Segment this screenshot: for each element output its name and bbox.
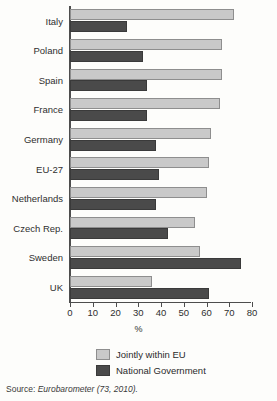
x-axis-tick-label: 70 [224, 307, 235, 319]
bar-jointly-within-eu [70, 246, 200, 257]
bar-national-government [70, 51, 143, 62]
bar-national-government [70, 110, 147, 121]
x-axis-tick [252, 302, 253, 307]
x-axis-tick [161, 302, 162, 307]
bar-jointly-within-eu [70, 217, 195, 228]
bar-national-government [70, 258, 241, 269]
x-axis-tick [138, 302, 139, 307]
x-axis-tick-label: 60 [201, 307, 212, 319]
bar-national-government [70, 140, 156, 151]
bar-jointly-within-eu [70, 39, 222, 50]
legend-item-jointly-within-eu: Jointly within EU [96, 347, 266, 362]
bar-jointly-within-eu [70, 9, 234, 20]
bar-jointly-within-eu [70, 98, 220, 109]
category-label: Germany [0, 135, 63, 145]
x-axis-tick [93, 302, 94, 307]
category-label: EU-27 [0, 165, 63, 175]
x-axis-tick-label: 40 [156, 307, 167, 319]
x-axis-tick [207, 302, 208, 307]
x-axis-tick [70, 302, 71, 307]
x-axis-tick-label: 30 [133, 307, 144, 319]
bar-jointly-within-eu [70, 69, 222, 80]
x-axis-tick [184, 302, 185, 307]
category-label: Italy [0, 17, 63, 27]
x-axis-tick [229, 302, 230, 307]
x-axis-tick-labels: 01020304050607080 [70, 307, 252, 321]
bar-jointly-within-eu [70, 157, 209, 168]
category-label: Sweden [0, 253, 63, 263]
bars-container [70, 6, 270, 302]
source-label: Source: [6, 384, 35, 394]
legend-label-jointly-within-eu: Jointly within EU [116, 349, 186, 360]
category-label: Poland [0, 46, 63, 56]
x-axis-tick-label: 10 [87, 307, 98, 319]
x-axis-title: % [0, 324, 277, 334]
category-axis-labels: ItalyPolandSpainFranceGermanyEU-27Nether… [0, 6, 66, 302]
category-label: Spain [0, 76, 63, 86]
x-axis-tick-label: 80 [247, 307, 258, 319]
plot-area: ItalyPolandSpainFranceGermanyEU-27Nether… [0, 6, 277, 302]
bar-national-government [70, 80, 147, 91]
category-label: Netherlands [0, 194, 63, 204]
bar-jointly-within-eu [70, 128, 211, 139]
x-axis-tick-label: 50 [178, 307, 189, 319]
bar-national-government [70, 169, 159, 180]
chart-legend: Jointly within EU National Government [96, 347, 266, 379]
bar-chart-figure: ItalyPolandSpainFranceGermanyEU-27Nether… [0, 0, 277, 401]
source-text: Eurobarometer (73, 2010). [38, 384, 138, 394]
x-axis-tick-label: 20 [110, 307, 121, 319]
bar-national-government [70, 228, 168, 239]
source-note: Source: Eurobarometer (73, 2010). [6, 384, 138, 394]
category-label: UK [0, 283, 63, 293]
category-label: France [0, 105, 63, 115]
legend-label-national-government: National Government [116, 365, 206, 376]
bar-national-government [70, 288, 209, 299]
x-axis-tick-label: 0 [67, 307, 72, 319]
bar-jointly-within-eu [70, 276, 152, 287]
bar-national-government [70, 21, 127, 32]
legend-swatch-icon-national-government [96, 365, 110, 376]
legend-swatch-icon-jointly-within-eu [96, 349, 110, 360]
bar-national-government [70, 199, 156, 210]
bar-jointly-within-eu [70, 187, 207, 198]
legend-item-national-government: National Government [96, 363, 266, 378]
category-label: Czech Rep. [0, 224, 63, 234]
x-axis-tick [116, 302, 117, 307]
